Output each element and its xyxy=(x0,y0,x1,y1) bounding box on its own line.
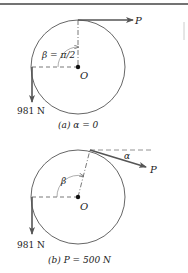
force-p-label-a: P xyxy=(134,15,142,26)
alpha-label-b: α xyxy=(124,151,130,161)
pulley-force-figure: P β = π/2 O 981 N (a) α = 0 P α β O 981 … xyxy=(0,0,188,273)
beta-label-b: β xyxy=(60,176,66,186)
beta-label-a: β = π/2 xyxy=(41,50,75,60)
weight-label-a: 981 N xyxy=(17,106,45,116)
force-p-arrow-b xyxy=(90,150,146,167)
diagram-a: P β = π/2 O 981 N (a) α = 0 xyxy=(17,15,142,130)
center-o-label-b: O xyxy=(80,201,88,212)
center-o-label-a: O xyxy=(80,70,88,81)
force-p-label-b: P xyxy=(149,164,157,175)
weight-label-b: 981 N xyxy=(17,240,45,250)
caption-a: (a) α = 0 xyxy=(58,120,99,130)
center-dot-b xyxy=(76,195,80,199)
center-dot-a xyxy=(76,65,80,69)
caption-b: (b) P = 500 N xyxy=(48,255,112,265)
figure-canvas: P β = π/2 O 981 N (a) α = 0 P α β O 981 … xyxy=(0,0,188,273)
diagram-b: P α β O 981 N (b) P = 500 N xyxy=(17,150,157,265)
radius-line-slanted-b xyxy=(78,150,90,197)
